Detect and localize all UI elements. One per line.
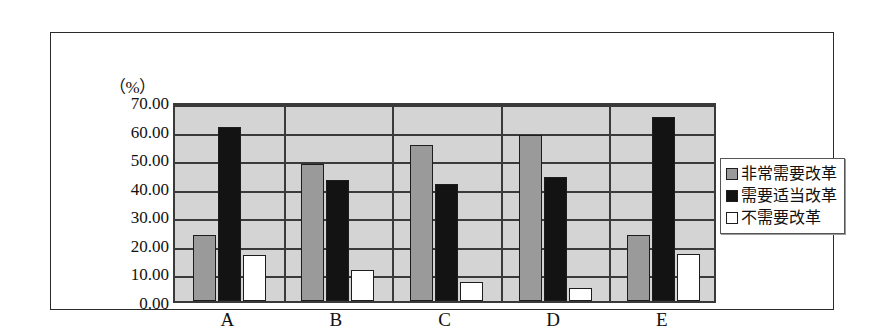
x-axis-tick-labels: ABCDE xyxy=(173,309,716,335)
bar-group-D xyxy=(501,105,610,301)
bar-E-series-2 xyxy=(677,254,700,301)
bar-B-series-2 xyxy=(351,270,374,301)
legend-item-1: 需要适当改革 xyxy=(726,185,837,207)
bar-D-series-0 xyxy=(519,135,542,301)
x-axis-tick-A: A xyxy=(220,309,234,331)
y-axis-tick-40: 40.00 xyxy=(103,180,169,197)
bar-A-series-1 xyxy=(218,127,241,301)
bar-B-series-0 xyxy=(301,164,324,301)
legend-label-0: 非常需要改革 xyxy=(741,166,837,182)
bar-A-series-0 xyxy=(193,235,216,301)
chart-legend: 非常需要改革需要适当改革不需要改革 xyxy=(720,158,845,234)
bar-E-series-0 xyxy=(627,235,650,301)
bar-group-B xyxy=(284,105,393,301)
legend-item-0: 非常需要改革 xyxy=(726,163,837,185)
bar-D-series-2 xyxy=(569,288,592,301)
y-axis-tick-20: 20.00 xyxy=(103,237,169,254)
bar-C-series-0 xyxy=(410,145,433,301)
y-axis-tick-10: 10.00 xyxy=(103,266,169,283)
bar-group-C xyxy=(392,105,501,301)
bar-B-series-1 xyxy=(326,180,349,301)
bar-group-A xyxy=(175,105,284,301)
bar-E-series-1 xyxy=(652,117,675,301)
y-axis-tick-50: 50.00 xyxy=(103,152,169,169)
y-axis-tick-70: 70.00 xyxy=(103,95,169,112)
bar-group-E xyxy=(609,105,716,301)
x-axis-tick-C: C xyxy=(438,309,451,331)
legend-swatch-icon-1 xyxy=(726,190,738,202)
bar-C-series-1 xyxy=(435,184,458,301)
legend-swatch-icon-0 xyxy=(726,168,738,180)
legend-swatch-icon-2 xyxy=(726,212,738,224)
y-axis-tick-30: 30.00 xyxy=(103,209,169,226)
legend-label-1: 需要适当改革 xyxy=(741,188,837,204)
bar-D-series-1 xyxy=(544,177,567,301)
chart-figure-frame: （%） 70.0060.0050.0040.0030.0020.0010.000… xyxy=(50,32,834,310)
bar-A-series-2 xyxy=(243,255,266,301)
x-axis-tick-B: B xyxy=(330,309,343,331)
y-axis-tick-60: 60.00 xyxy=(103,123,169,140)
legend-label-2: 不需要改革 xyxy=(741,210,821,226)
x-axis-tick-E: E xyxy=(656,309,668,331)
y-axis-tick-labels: 70.0060.0050.0040.0030.0020.0010.000.00 xyxy=(103,95,169,311)
legend-item-2: 不需要改革 xyxy=(726,207,837,229)
y-axis-tick-0: 0.00 xyxy=(103,295,169,312)
plot-area xyxy=(173,103,716,303)
plot-inner xyxy=(175,105,714,301)
bar-C-series-2 xyxy=(460,282,483,301)
x-axis-tick-D: D xyxy=(546,309,560,331)
